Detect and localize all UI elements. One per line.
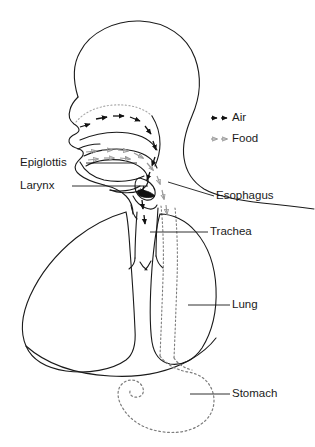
label-lung: Lung: [232, 299, 258, 311]
esophagus: [160, 206, 177, 358]
label-esophagus: Esophagus: [216, 190, 274, 202]
left-lung: [23, 212, 136, 372]
label-epiglottis: Epiglottis: [20, 157, 67, 169]
right-lung: [150, 214, 216, 364]
tongue: [86, 160, 148, 193]
legend-label-air: Air: [232, 112, 246, 124]
diaphragm: [26, 338, 216, 376]
trachea: [129, 208, 163, 270]
leader-esophagus: [168, 182, 214, 196]
label-larynx: Larynx: [20, 180, 55, 192]
anatomy-figure: Epiglottis Larynx Esophagus Trachea Lung…: [0, 0, 315, 447]
legend-label-food: Food: [232, 133, 258, 145]
anatomy-diagram: [0, 0, 315, 447]
epiglottis: [135, 178, 155, 200]
label-stomach: Stomach: [232, 388, 277, 400]
food-flow-arrows: [86, 150, 167, 214]
label-trachea: Trachea: [210, 226, 252, 238]
